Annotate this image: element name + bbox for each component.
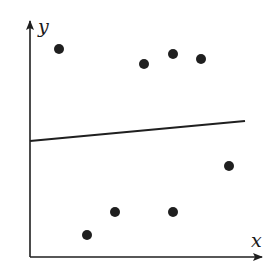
data-points bbox=[54, 44, 234, 240]
fit-line bbox=[30, 121, 245, 141]
x-axis-label: x bbox=[251, 229, 262, 251]
y-axis-label: y bbox=[37, 15, 49, 37]
data-point bbox=[168, 207, 178, 217]
data-point bbox=[110, 207, 120, 217]
data-point bbox=[168, 49, 178, 59]
scatter-plot: y x bbox=[0, 0, 272, 276]
data-point bbox=[139, 59, 149, 69]
data-point bbox=[224, 161, 234, 171]
data-point bbox=[196, 54, 206, 64]
data-point bbox=[54, 44, 64, 54]
data-point bbox=[82, 230, 92, 240]
